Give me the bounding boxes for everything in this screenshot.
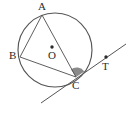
dot-point-t-icon bbox=[104, 55, 107, 58]
point-label-b: B bbox=[9, 50, 16, 61]
point-label-c: C bbox=[72, 80, 79, 91]
point-label-o: O bbox=[48, 50, 56, 61]
chord-ac bbox=[42, 15, 76, 77]
geometry-canvas bbox=[0, 0, 133, 115]
point-label-t: T bbox=[102, 61, 109, 72]
point-label-a: A bbox=[38, 1, 46, 12]
geometry-diagram: A B O C T bbox=[0, 0, 133, 115]
